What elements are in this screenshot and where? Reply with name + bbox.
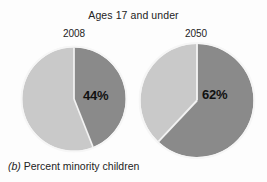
pie-chart-2050 <box>138 41 256 160</box>
pie-year-label-2008: 2008 <box>38 28 110 39</box>
figure-caption: (b) Percent minority children <box>8 160 139 172</box>
pie-value-label-2050: 62% <box>202 87 227 102</box>
figure-percent-minority-children: Ages 17 and under 2008 2050 44% 62% (b) … <box>0 0 267 182</box>
figure-caption-text: Percent minority children <box>24 160 140 172</box>
pie-year-label-2050: 2050 <box>160 28 232 39</box>
pie-value-label-2008: 44% <box>83 88 108 103</box>
figure-title: Ages 17 and under <box>0 9 267 21</box>
pie-chart-2008 <box>20 44 128 154</box>
figure-caption-letter: (b) <box>8 160 21 172</box>
pie-svg-2050 <box>138 41 256 160</box>
pie-svg-2008 <box>20 44 128 154</box>
